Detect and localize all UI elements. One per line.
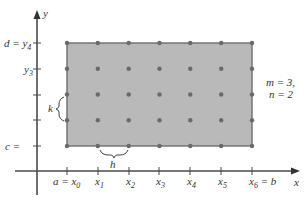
- grid-point: [250, 144, 254, 148]
- y-tick-label-y3: y3: [23, 63, 33, 78]
- grid-point: [219, 118, 223, 122]
- parameter-n: n = 2: [269, 88, 293, 100]
- x-axis-label: x: [293, 176, 299, 188]
- grid-point: [96, 118, 100, 122]
- grid-point: [65, 41, 69, 45]
- grid-point: [188, 118, 192, 122]
- grid-point: [157, 92, 161, 96]
- grid-point: [96, 67, 100, 71]
- h-brace-icon: [100, 150, 128, 158]
- grid-point: [96, 41, 100, 45]
- x-tick-label-x6: x6 = b: [248, 175, 277, 190]
- parameter-m: m = 3,: [266, 76, 295, 88]
- grid-point: [219, 144, 223, 148]
- grid-point: [250, 118, 254, 122]
- grid-point: [188, 41, 192, 45]
- grid-point: [250, 92, 254, 96]
- grid-point: [157, 67, 161, 71]
- grid-diagram: y x d = y4 y3 c = a = x0 x1 x2 x3: [0, 0, 308, 198]
- grid-point: [219, 67, 223, 71]
- grid-point: [127, 144, 131, 148]
- y-axis-arrow-icon: [34, 10, 41, 19]
- grid-point: [188, 144, 192, 148]
- grid-point: [96, 92, 100, 96]
- grid-point: [219, 41, 223, 45]
- x-tick-label-x3: x3: [155, 175, 165, 190]
- grid-point: [157, 144, 161, 148]
- grid-point: [127, 67, 131, 71]
- grid-point: [65, 92, 69, 96]
- grid-point: [65, 118, 69, 122]
- x-tick-label-x5: x5: [217, 175, 227, 190]
- k-label: k: [48, 102, 54, 114]
- x-tick-label-x4: x4: [186, 175, 196, 190]
- grid-point: [127, 41, 131, 45]
- grid-point: [188, 92, 192, 96]
- grid-point: [127, 92, 131, 96]
- grid-point: [96, 144, 100, 148]
- x-tick-label-x1: x1: [94, 175, 104, 190]
- grid-point: [157, 41, 161, 45]
- h-label: h: [110, 158, 116, 170]
- grid-point: [219, 92, 223, 96]
- grid-point: [157, 118, 161, 122]
- x-axis-arrow-icon: [291, 168, 300, 175]
- grid-point: [250, 41, 254, 45]
- grid-point: [188, 67, 192, 71]
- grid-point: [65, 144, 69, 148]
- y-tick-label-y4: d = y4: [4, 37, 31, 52]
- x-tick-label-x0: a = x0: [53, 175, 80, 190]
- x-tick-label-x2: x2: [125, 175, 135, 190]
- y-axis-label: y: [42, 7, 48, 19]
- k-brace-icon: [56, 97, 64, 121]
- grid-point: [250, 67, 254, 71]
- grid-point: [65, 67, 69, 71]
- grid-point: [127, 118, 131, 122]
- y-tick-label-c: c =: [5, 140, 20, 152]
